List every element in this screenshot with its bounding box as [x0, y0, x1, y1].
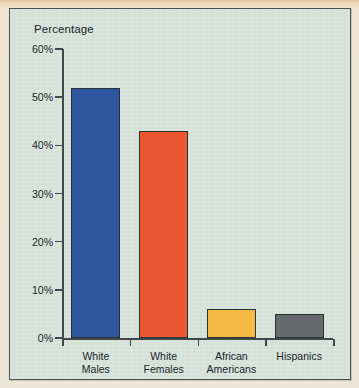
- y-tick-label: 0%: [13, 332, 53, 344]
- y-tick-mark: [55, 96, 63, 98]
- bar: [71, 88, 120, 338]
- y-tick-label: 50%: [13, 91, 53, 103]
- category-label-line: Hispanics: [251, 350, 347, 363]
- x-tick-mark: [130, 339, 132, 346]
- y-tick-label: 60%: [13, 43, 53, 55]
- y-tick-mark: [55, 145, 63, 147]
- bar: [139, 131, 188, 338]
- y-tick-mark: [55, 289, 63, 291]
- x-tick-mark: [333, 339, 335, 346]
- bar: [275, 314, 324, 338]
- plot-area: 0%10%20%30%40%50%60% WhiteMalesWhiteFema…: [10, 9, 350, 379]
- category-label-line: Americans: [183, 363, 279, 376]
- y-tick-mark: [55, 193, 63, 195]
- x-tick-mark: [62, 339, 64, 346]
- y-tick-label: 10%: [13, 284, 53, 296]
- chart-screenshot: Percentage 0%10%20%30%40%50%60% WhiteMal…: [0, 0, 359, 388]
- y-tick-mark: [55, 48, 63, 50]
- category-label: Hispanics: [251, 350, 347, 363]
- bar: [207, 309, 256, 338]
- x-tick-mark: [198, 339, 200, 346]
- y-tick-label: 20%: [13, 236, 53, 248]
- y-tick-label: 40%: [13, 139, 53, 151]
- y-tick-label: 30%: [13, 188, 53, 200]
- y-tick-mark: [55, 241, 63, 243]
- chart-panel: Percentage 0%10%20%30%40%50%60% WhiteMal…: [9, 8, 351, 380]
- x-tick-mark: [265, 339, 267, 346]
